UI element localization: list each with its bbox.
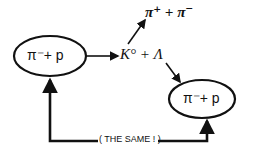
arrow-to-pions: [128, 20, 145, 44]
arrow-to-right-node: [166, 63, 180, 82]
loop-line-right: [158, 121, 207, 141]
decay-products-label: π⁺ + π⁻: [145, 3, 193, 21]
intermediate-label: K° + Λ: [120, 46, 163, 63]
loop-label: ( THE SAME ! ): [99, 134, 161, 144]
right-node-label: π⁻+ p: [183, 90, 220, 106]
loop-line-left: [50, 80, 98, 141]
left-node-label: π⁻+ p: [27, 47, 64, 63]
